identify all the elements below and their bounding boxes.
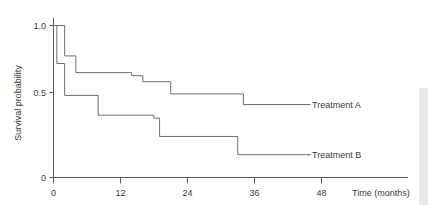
x-tick-labels: 0 12 24 36 48: [51, 188, 327, 198]
x-tick-marks: [54, 178, 322, 184]
survival-curve-figure: 1.0 0.5 0 Survival probability 0 12 24 3…: [0, 0, 428, 205]
x-tick-label-5: 48: [316, 188, 326, 198]
series-label-treatment-b: Treatment B: [312, 150, 361, 160]
series-label-treatment-a: Treatment A: [312, 100, 361, 110]
page-edge-artifact: [419, 88, 428, 205]
y-tick-label-2: 0.5: [33, 88, 46, 98]
y-axis-title: Survival probability: [13, 65, 23, 141]
series-curves: [54, 26, 311, 155]
y-tick-label-1: 1.0: [33, 21, 46, 31]
series-line-treatment-b: [54, 26, 311, 155]
x-tick-label-1: 0: [51, 188, 56, 198]
y-tick-marks: [50, 26, 54, 178]
kaplan-meier-chart: 1.0 0.5 0 Survival probability 0 12 24 3…: [0, 0, 428, 205]
series-annotations: Treatment A Treatment B: [312, 100, 361, 160]
x-tick-label-3: 24: [182, 188, 192, 198]
series-line-treatment-a: [54, 26, 311, 105]
y-tick-labels: 1.0 0.5 0: [33, 21, 46, 183]
x-tick-label-4: 36: [249, 188, 259, 198]
x-axis-title: Time (months): [352, 188, 410, 198]
y-tick-label-3: 0: [41, 173, 46, 183]
x-tick-label-2: 12: [115, 188, 125, 198]
